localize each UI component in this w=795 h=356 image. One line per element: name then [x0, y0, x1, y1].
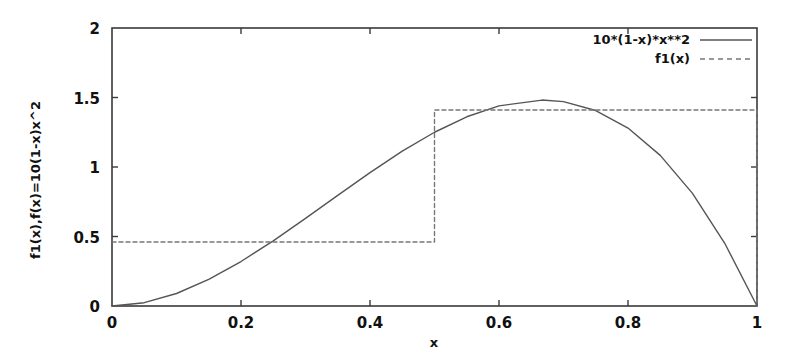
chart-container: 00.511.52 00.20.40.60.81 x f1(x),f(x)=10…: [0, 0, 795, 356]
y-tick-label: 2: [90, 20, 100, 38]
plot-frame: [112, 28, 757, 306]
series-layer: [112, 100, 757, 306]
y-tick-label: 0: [90, 298, 100, 316]
y-tick-label: 0.5: [73, 229, 100, 247]
y-tick-label: 1: [90, 159, 100, 177]
legend-entry-label-1: f1(x): [655, 51, 690, 66]
x-tick-labels: 00.20.40.60.81: [107, 314, 762, 332]
x-tick-label: 1: [752, 314, 762, 332]
y-tick-labels: 00.511.52: [73, 20, 100, 316]
y-axis-title: f1(x),f(x)=10(1-x)x^2: [28, 101, 43, 259]
chart-legend: 10*(1-x)*x**2 f1(x): [500, 30, 754, 72]
x-tick-label: 0: [107, 314, 117, 332]
x-tick-label: 0.2: [228, 314, 255, 332]
x-tick-label: 0.6: [486, 314, 513, 332]
x-axis-title: x: [430, 335, 439, 350]
series-line-1: [112, 110, 757, 306]
y-tick-label: 1.5: [73, 90, 100, 108]
legend-entry-label-0: 10*(1-x)*x**2: [593, 32, 690, 47]
axis-ticks: [112, 28, 757, 306]
line-chart: 00.511.52 00.20.40.60.81 x f1(x),f(x)=10…: [0, 0, 795, 356]
x-tick-label: 0.4: [357, 314, 384, 332]
x-tick-label: 0.8: [615, 314, 642, 332]
